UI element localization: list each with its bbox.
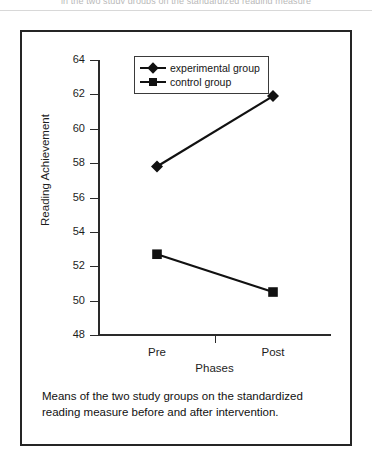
square-data-point xyxy=(152,249,162,259)
figure-caption: Means of the two study groups on the sta… xyxy=(42,388,332,420)
legend-item[interactable]: experimental group xyxy=(140,61,260,75)
cut-off-header-text: in the two study groups on the standardi… xyxy=(0,0,372,4)
diamond-data-point xyxy=(151,161,163,173)
legend-item-label: control group xyxy=(170,76,231,88)
figure-box: 485052545658606264 PrePost Reading Achie… xyxy=(20,30,352,446)
square-marker-icon xyxy=(140,76,166,88)
chart-plot-area: 485052545658606264 PrePost Reading Achie… xyxy=(22,32,354,362)
square-data-point xyxy=(268,287,278,297)
legend-item-label: experimental group xyxy=(170,62,260,74)
chart-legend: experimental group control group xyxy=(134,56,269,94)
series-line xyxy=(157,254,273,292)
x-axis-title: Phases xyxy=(98,362,331,374)
diamond-marker-icon xyxy=(140,62,166,74)
header-divider-rule xyxy=(0,10,372,11)
legend-item[interactable]: control group xyxy=(140,75,260,89)
series-line xyxy=(157,96,273,166)
